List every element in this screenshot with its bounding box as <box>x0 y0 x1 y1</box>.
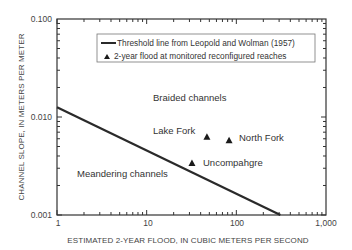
x-axis-title: ESTIMATED 2-YEAR FLOOD, IN CUBIC METERS … <box>67 236 308 245</box>
y-tick-label-0.100: 0.100 <box>31 14 53 24</box>
x-tick-label-100: 100 <box>230 218 244 228</box>
legend-item-threshold: Threshold line from Leopold and Wolman (… <box>117 38 295 48</box>
legend-item-flood: 2-year flood at monitored reconfigured r… <box>114 51 287 61</box>
y-axis-title: CHANNEL SLOPE, IN METERS PER METER <box>17 33 26 200</box>
x-tick-label-1000: 1,000 <box>315 218 337 228</box>
y-tick-label-0.001: 0.001 <box>31 210 53 220</box>
data-point-north-fork <box>226 137 233 144</box>
x-tick-label-1: 1 <box>56 218 61 228</box>
data-point-uncompahgre <box>188 159 195 166</box>
label-braided-channels: Braided channels <box>153 92 227 103</box>
data-point-lake-fork <box>203 133 210 140</box>
label-meandering-channels: Meandering channels <box>77 168 168 179</box>
x-tick-label-10: 10 <box>143 218 153 228</box>
label-uncompahgre: Uncompahgre <box>203 157 263 168</box>
y-tick-label-0.010: 0.010 <box>31 112 53 122</box>
legend: Threshold line from Leopold and Wolman (… <box>97 34 315 62</box>
chart-canvas: 0.100 0.010 0.001 1 10 100 1,000 ESTIMAT… <box>0 0 352 250</box>
label-north-fork: North Fork <box>239 132 284 143</box>
label-lake-fork: Lake Fork <box>153 125 195 136</box>
